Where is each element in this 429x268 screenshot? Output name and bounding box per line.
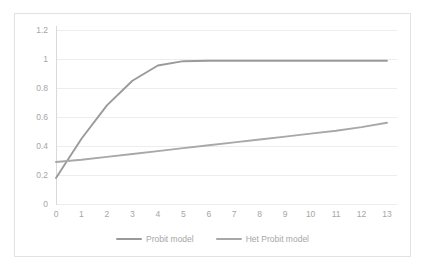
y-tick-label: 0.8 [36, 83, 48, 93]
x-tick-label: 11 [332, 209, 341, 219]
x-tick-label: 3 [130, 209, 135, 219]
x-tick-label: 4 [155, 209, 160, 219]
series-line-2 [56, 123, 387, 162]
legend-label-het-probit-model: Het Probit model [246, 235, 309, 244]
x-tick-label: 8 [257, 209, 262, 219]
data-series [56, 61, 387, 178]
x-tick-label: 1 [79, 209, 84, 219]
gridlines [56, 31, 397, 205]
y-tick-label: 0.2 [36, 170, 48, 180]
y-tick-label: 1.2 [36, 25, 48, 35]
legend-item-het-probit-model[interactable]: Het Probit model [216, 235, 309, 244]
x-tick-label: 10 [306, 209, 316, 219]
y-tick-label: 1 [43, 54, 48, 64]
chart-legend: Probit model Het Probit model [14, 231, 411, 247]
x-tick-label: 6 [206, 209, 211, 219]
legend-label-probit-model: Probit model [146, 235, 194, 244]
x-tick-label: 5 [181, 209, 186, 219]
x-axis-tick-labels: 012345678910111213 [54, 209, 392, 219]
x-tick-label: 0 [54, 209, 59, 219]
chart-canvas: 00.20.40.60.811.2 012345678910111213 [0, 0, 429, 268]
legend-item-probit-model[interactable]: Probit model [116, 235, 194, 244]
legend-swatch-probit-model [116, 238, 142, 240]
x-tick-label: 7 [232, 209, 237, 219]
series-line-1 [56, 61, 387, 178]
legend-swatch-het-probit-model [216, 238, 242, 240]
x-tick-label: 13 [382, 209, 392, 219]
x-tick-label: 9 [283, 209, 288, 219]
x-tick-label: 12 [357, 209, 367, 219]
y-tick-label: 0.4 [36, 141, 48, 151]
y-axis-tick-labels: 00.20.40.60.811.2 [36, 25, 48, 209]
chart-container: 00.20.40.60.811.2 012345678910111213 Pro… [0, 0, 429, 268]
y-tick-label: 0 [43, 199, 48, 209]
y-tick-label: 0.6 [36, 112, 48, 122]
x-tick-label: 2 [105, 209, 110, 219]
